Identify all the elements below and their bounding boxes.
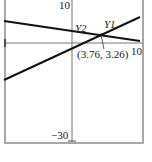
intersection-leader [101, 35, 104, 49]
intersection-label: (3.76, 3.26) [77, 49, 128, 60]
x-max-label: 10 [131, 46, 142, 57]
y-max-label: 10 [59, 0, 70, 11]
series-y2-label: Y2 [75, 23, 87, 34]
series-y1-label: Y1 [104, 19, 116, 30]
y-min-label: −30 [51, 130, 68, 141]
